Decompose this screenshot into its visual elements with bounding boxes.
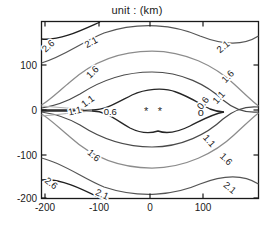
star-marker-1: * <box>144 105 149 117</box>
x-tick-label-2: 0 <box>147 202 153 213</box>
contour-plot-figure: unit : (km) <box>0 0 274 226</box>
contour-label-0.6-5: 0.6 <box>104 106 117 117</box>
contour-chart-canvas: -200 -100 0 100 100 0 -100 -200 2.62.62.… <box>0 0 274 226</box>
star-marker-2: * <box>158 105 163 117</box>
x-tick-label-0: -200 <box>35 202 55 213</box>
y-tick-label-0: 100 <box>20 60 37 71</box>
x-tick-labels: -200 -100 0 100 <box>35 202 212 213</box>
y-tick-labels: 100 0 -100 -200 <box>17 60 37 204</box>
x-tick-label-1: -100 <box>89 202 109 213</box>
y-tick-label-2: -100 <box>17 150 37 161</box>
y-tick-label-1: 0 <box>31 105 37 116</box>
circle-marker-1: o <box>198 106 204 118</box>
x-tick-label-3: 100 <box>195 202 212 213</box>
y-tick-label-3: -200 <box>17 193 37 204</box>
